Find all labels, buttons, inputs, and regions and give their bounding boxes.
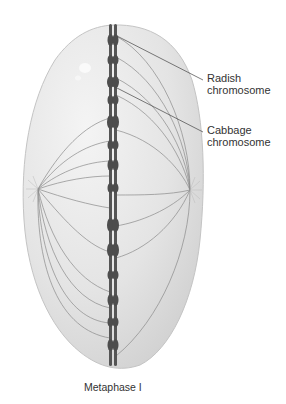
radish-label-line2: chromosome	[207, 84, 271, 96]
cabbage-label-line2: chromosome	[207, 136, 271, 148]
cabbage-label-line1: Cabbage	[207, 124, 271, 136]
cell-illustration	[0, 0, 286, 404]
cell-membrane	[23, 25, 203, 368]
radish-chromosome-label: Radish chromosome	[207, 72, 271, 96]
metaphase-diagram: Radish chromosome Cabbage chromosome Met…	[0, 0, 286, 404]
diagram-caption: Metaphase I	[84, 381, 142, 393]
cabbage-chromosome-label: Cabbage chromosome	[207, 124, 271, 148]
radish-label-line1: Radish	[207, 72, 271, 84]
